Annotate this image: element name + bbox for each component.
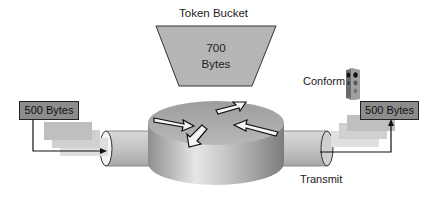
- outgoing-packet: 500 Bytes: [360, 101, 419, 120]
- token-bucket-value: 700 Bytes: [176, 40, 256, 72]
- ingress-arrow: [30, 118, 110, 158]
- egress-arrow: [320, 119, 400, 155]
- token-bucket-title: Token Bucket: [179, 7, 248, 19]
- token-bucket-unit: Bytes: [176, 56, 256, 72]
- conform-label: Conform: [303, 75, 345, 87]
- traffic-light-icon: [345, 68, 361, 100]
- token-bucket-amount: 700: [176, 40, 256, 56]
- transmit-label: Transmit: [300, 173, 342, 185]
- router-icon: [146, 95, 286, 187]
